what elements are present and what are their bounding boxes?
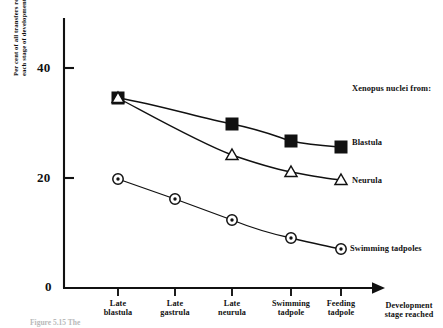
y-axis-title: Per cent of all transfers reaching each …: [12, 0, 30, 76]
data-point-blastula-3: [285, 135, 298, 148]
x-tick-label-late-gastrula: Late gastrula: [150, 299, 200, 317]
x-tick-label-late-gastrula-line2: gastrula: [150, 308, 200, 317]
x-tick-label-feeding-tadpole-line1: Feeding: [315, 299, 367, 308]
x-axis-title-line2: stage reached: [378, 310, 440, 319]
figure-container: 40 20 0 Per cent of all transfers reachi…: [0, 0, 443, 328]
x-tick-label-late-blastula-line1: Late: [93, 299, 143, 308]
data-point-blastula-4: [335, 141, 348, 154]
y-axis-title-line1: Per cent of all transfers reaching: [12, 0, 20, 76]
series-label-swimming-tadpoles: Swimming tadpoles: [350, 244, 422, 253]
data-point-swimming-tadpoles-1: [113, 174, 123, 184]
x-tick-label-late-neurula-line1: Late: [207, 299, 257, 308]
data-point-swimming-tadpoles-2: [170, 194, 180, 204]
x-tick-label-late-blastula: Late blastula: [93, 299, 143, 317]
data-point-swimming-tadpoles-4: [286, 233, 296, 243]
series-line-neurula: [118, 98, 341, 180]
data-point-neurula-2: [226, 149, 238, 160]
y-tick-label-40: 40: [37, 60, 50, 76]
x-axis-title-line1: Development: [378, 301, 440, 310]
series-label-blastula: Blastula: [352, 138, 382, 147]
legend-title: Xenopus nuclei from:: [352, 84, 431, 93]
x-axis-title: Development stage reached: [378, 301, 440, 319]
x-tick-label-feeding-tadpole: Feeding tadpole: [315, 299, 367, 317]
x-tick-label-late-neurula-line2: neurula: [207, 308, 257, 317]
x-axis-arrowhead: [372, 282, 385, 294]
x-tick-label-late-neurula: Late neurula: [207, 299, 257, 317]
x-tick-label-swimming-tadpole-line1: Swimming: [263, 299, 319, 308]
x-tick-label-feeding-tadpole-line2: tadpole: [315, 308, 367, 317]
chart-plot-area: [0, 0, 443, 328]
data-point-blastula-2: [226, 118, 239, 131]
x-tick-label-swimming-tadpole-line2: tadpole: [263, 308, 319, 317]
x-tick-label-late-blastula-line2: blastula: [93, 308, 143, 317]
x-tick-label-late-gastrula-line1: Late: [150, 299, 200, 308]
y-axis-title-line2: each stage of development: [20, 0, 28, 76]
figure-caption: Figure 5.15 The: [30, 318, 250, 327]
series-line-swimming-tadpoles: [118, 179, 341, 249]
y-tick-label-20: 20: [37, 170, 50, 186]
data-point-swimming-tadpoles-3: [227, 215, 237, 225]
x-tick-label-swimming-tadpole: Swimming tadpole: [263, 299, 319, 317]
data-point-swimming-tadpoles-5: [336, 244, 346, 254]
series-label-neurula: Neurula: [352, 176, 382, 185]
y-tick-label-0: 0: [45, 279, 52, 295]
